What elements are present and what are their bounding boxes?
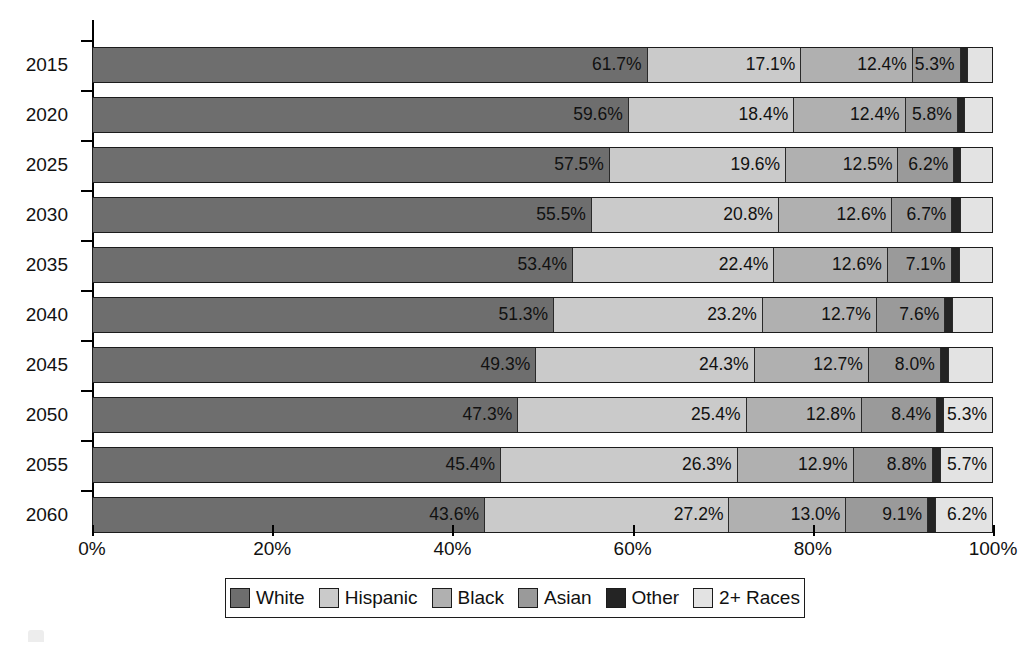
legend-item-other[interactable]: Other — [606, 587, 680, 609]
bar-segment-asian: 9.1% — [846, 498, 928, 532]
category-tick — [81, 440, 92, 442]
bar-segment-2-races — [961, 198, 992, 232]
bar-segment-other — [958, 98, 965, 132]
category-tick — [81, 290, 92, 292]
bar-segment-asian: 6.7% — [892, 198, 952, 232]
bar-segment-asian: 8.4% — [862, 398, 938, 432]
bar-segment-asian: 7.1% — [888, 248, 952, 282]
bar-segment-other — [933, 448, 941, 482]
bar-row-2035: 53.4%22.4%12.6%7.1% — [92, 247, 993, 283]
bar-row-2015: 61.7%17.1%12.4%5.3% — [92, 47, 993, 83]
x-axis-label-60pct: 60% — [614, 538, 652, 560]
bar-segment-white: 61.7% — [93, 48, 648, 82]
legend-label: 2+ Races — [719, 587, 800, 609]
bar-segment-black: 12.8% — [747, 398, 862, 432]
legend-item-asian[interactable]: Asian — [518, 587, 592, 609]
bar-segment-hispanic: 22.4% — [573, 248, 774, 282]
legend-item-2-races[interactable]: 2+ Races — [693, 587, 800, 609]
bar-segment-2-races: 5.7% — [941, 448, 992, 482]
legend-label: Black — [458, 587, 504, 609]
bar-segment-black: 12.4% — [801, 48, 912, 82]
bar-row-2060: 43.6%27.2%13.0%9.1%6.2% — [92, 497, 993, 533]
x-tick — [993, 525, 995, 536]
bar-segment-2-races — [965, 98, 992, 132]
x-tick — [272, 525, 274, 536]
bar-segment-black: 12.5% — [786, 148, 898, 182]
y-axis-label-2030: 2030 — [0, 197, 68, 233]
y-axis-label-2020: 2020 — [0, 97, 68, 133]
bar-segment-asian: 5.3% — [913, 48, 961, 82]
legend-swatch-icon — [230, 588, 250, 608]
bar-segment-other — [937, 398, 944, 432]
scan-artifact — [28, 630, 44, 642]
y-axis-label-2060: 2060 — [0, 497, 68, 533]
legend-swatch-icon — [606, 588, 626, 608]
bar-segment-hispanic: 26.3% — [501, 448, 737, 482]
y-axis-label-2045: 2045 — [0, 347, 68, 383]
bar-segment-other — [952, 198, 960, 232]
stacked-bar: 51.3%23.2%12.7%7.6% — [92, 297, 993, 333]
bar-segment-2-races: 5.3% — [944, 398, 992, 432]
category-tick — [81, 390, 92, 392]
legend-label: Other — [632, 587, 680, 609]
bar-segment-2-races — [961, 148, 992, 182]
bar-segment-white: 49.3% — [93, 348, 536, 382]
legend-item-white[interactable]: White — [230, 587, 305, 609]
category-tick — [81, 140, 92, 142]
category-tick — [81, 340, 92, 342]
x-tick — [452, 525, 454, 536]
bar-segment-white: 55.5% — [93, 198, 592, 232]
bar-segment-black: 12.7% — [755, 348, 869, 382]
bar-segment-white: 43.6% — [93, 498, 485, 532]
legend-swatch-icon — [432, 588, 452, 608]
bar-segment-asian: 8.0% — [869, 348, 941, 382]
bar-segment-2-races — [960, 248, 992, 282]
bar-segment-asian: 5.8% — [906, 98, 958, 132]
bar-segment-2-races — [968, 48, 992, 82]
bar-segment-hispanic: 20.8% — [592, 198, 779, 232]
stacked-bar: 61.7%17.1%12.4%5.3% — [92, 47, 993, 83]
x-tick — [92, 525, 94, 536]
bar-segment-white: 45.4% — [93, 448, 501, 482]
bar-segment-black: 12.7% — [763, 298, 877, 332]
bar-segment-2-races: 6.2% — [936, 498, 992, 532]
category-tick — [81, 190, 92, 192]
bar-segment-black: 12.4% — [794, 98, 905, 132]
bar-segment-white: 59.6% — [93, 98, 629, 132]
stacked-bar: 55.5%20.8%12.6%6.7% — [92, 197, 993, 233]
bar-segment-white: 53.4% — [93, 248, 573, 282]
bar-segment-white: 57.5% — [93, 148, 610, 182]
y-axis-label-2055: 2055 — [0, 447, 68, 483]
bar-segment-hispanic: 24.3% — [536, 348, 754, 382]
legend-swatch-icon — [518, 588, 538, 608]
legend-item-black[interactable]: Black — [432, 587, 504, 609]
bar-segment-other — [928, 498, 936, 532]
bar-segment-hispanic: 27.2% — [485, 498, 730, 532]
x-tick — [813, 525, 815, 536]
bar-segment-asian: 6.2% — [898, 148, 954, 182]
x-axis-label-40pct: 40% — [433, 538, 471, 560]
legend-label: White — [256, 587, 305, 609]
bar-segment-2-races — [953, 298, 992, 332]
bar-segment-other — [941, 348, 949, 382]
legend-item-hispanic[interactable]: Hispanic — [319, 587, 418, 609]
stacked-bar: 47.3%25.4%12.8%8.4%5.3% — [92, 397, 993, 433]
bar-segment-black: 13.0% — [729, 498, 846, 532]
bar-row-2025: 57.5%19.6%12.5%6.2% — [92, 147, 993, 183]
bar-segment-hispanic: 23.2% — [554, 298, 763, 332]
y-axis-label-2035: 2035 — [0, 247, 68, 283]
bar-segment-asian: 7.6% — [877, 298, 945, 332]
legend-swatch-icon — [319, 588, 339, 608]
stacked-bar: 45.4%26.3%12.9%8.8%5.7% — [92, 447, 993, 483]
x-axis-label-0pct: 0% — [78, 538, 105, 560]
bar-segment-hispanic: 18.4% — [629, 98, 794, 132]
x-axis-label-20pct: 20% — [253, 538, 291, 560]
y-axis-label-2040: 2040 — [0, 297, 68, 333]
stacked-bar: 49.3%24.3%12.7%8.0% — [92, 347, 993, 383]
legend-swatch-icon — [693, 588, 713, 608]
bar-row-2050: 47.3%25.4%12.8%8.4%5.3% — [92, 397, 993, 433]
y-axis-label-2015: 2015 — [0, 47, 68, 83]
bar-segment-asian: 8.8% — [854, 448, 933, 482]
bar-segment-white: 47.3% — [93, 398, 518, 432]
bar-row-2055: 45.4%26.3%12.9%8.8%5.7% — [92, 447, 993, 483]
